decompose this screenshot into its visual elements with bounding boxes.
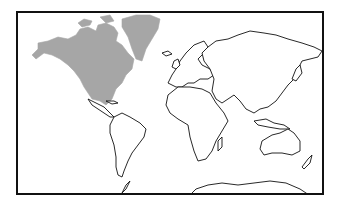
region-new-zealand <box>302 155 312 169</box>
region-asia[interactable] <box>202 31 322 113</box>
region-antarctic-peninsula <box>122 181 130 193</box>
region-australia[interactable] <box>260 129 300 155</box>
highlighted-region-label: North America (incl. Greenland) <box>0 0 1 1</box>
region-madagascar <box>218 137 222 151</box>
region-indonesia <box>254 119 290 129</box>
world-map <box>18 13 324 195</box>
region-south-america[interactable] <box>110 113 146 177</box>
region-north-america[interactable] <box>32 15 134 105</box>
map-frame <box>16 11 324 195</box>
region-antarctica[interactable] <box>188 181 312 195</box>
region-iceland <box>162 51 172 56</box>
